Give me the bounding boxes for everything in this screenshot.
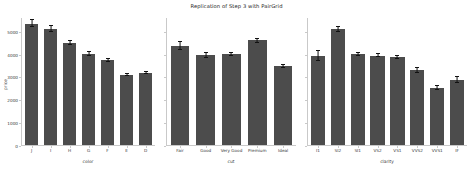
panel-cut: FairGoodVery GoodPremiumIdeal cut bbox=[166, 18, 296, 168]
error-bar-cap-top bbox=[87, 51, 91, 52]
x-tick-label: J bbox=[22, 146, 41, 154]
error-bar-cap-bottom bbox=[87, 55, 91, 56]
x-tick-label: E bbox=[117, 146, 136, 154]
error-bar-cap-bottom bbox=[281, 67, 285, 68]
x-tick-label: SI2 bbox=[328, 146, 348, 154]
bar-group-color bbox=[22, 18, 155, 145]
x-axis-label-clarity: clarity bbox=[307, 159, 467, 164]
bar-slot bbox=[193, 18, 219, 145]
bar-slot bbox=[328, 18, 348, 145]
panel-color: 010002000300040005000 price JIHGFED colo… bbox=[21, 18, 155, 168]
y-tick-mark bbox=[305, 32, 307, 33]
x-tick-mark bbox=[231, 146, 232, 148]
x-tick-mark bbox=[180, 146, 181, 148]
y-tick-mark bbox=[305, 55, 307, 56]
bar-slot bbox=[41, 18, 60, 145]
y-tick-mark bbox=[164, 146, 166, 147]
bar bbox=[370, 56, 384, 146]
x-axis-ticks-cut: FairGoodVery GoodPremiumIdeal bbox=[167, 146, 296, 154]
y-tick-mark bbox=[19, 100, 21, 101]
error-bar-cap-top bbox=[30, 19, 34, 20]
bar-slot bbox=[368, 18, 388, 145]
x-axis-label-color: color bbox=[21, 159, 155, 164]
bar bbox=[44, 29, 58, 145]
y-tick-mark bbox=[164, 32, 166, 33]
x-tick-label: Ideal bbox=[270, 146, 296, 154]
bar-group-cut bbox=[167, 18, 296, 145]
error-bar-cap-top bbox=[204, 52, 208, 53]
error-bar-cap-bottom bbox=[178, 49, 182, 50]
y-tick-label: 0 bbox=[15, 144, 18, 149]
error-bar-cap-top bbox=[316, 50, 320, 51]
error-bar-cap-bottom bbox=[316, 60, 320, 61]
bar-slot bbox=[79, 18, 98, 145]
bar bbox=[450, 80, 464, 145]
x-tick-mark bbox=[318, 146, 319, 148]
x-axis-ticks-color: JIHGFED bbox=[22, 146, 155, 154]
x-tick-label: G bbox=[79, 146, 98, 154]
x-tick-label: VS2 bbox=[368, 146, 388, 154]
bar-group-clarity bbox=[308, 18, 467, 145]
error-bar-cap-top bbox=[229, 52, 233, 53]
x-axis-ticks-clarity: I1SI2SI1VS2VS1VVS2VVS1IF bbox=[308, 146, 467, 154]
bar bbox=[248, 40, 267, 145]
x-tick-mark bbox=[146, 146, 147, 148]
error-bar-cap-top bbox=[178, 41, 182, 42]
error-bar-cap-top bbox=[395, 55, 399, 56]
bar bbox=[82, 54, 96, 145]
x-tick-mark bbox=[378, 146, 379, 148]
bar bbox=[430, 88, 444, 146]
error-bar-cap-bottom bbox=[455, 82, 459, 83]
x-tick-mark bbox=[257, 146, 258, 148]
bar bbox=[390, 57, 404, 145]
bar bbox=[25, 24, 39, 146]
error-bar-cap-bottom bbox=[255, 42, 259, 43]
x-tick-mark bbox=[89, 146, 90, 148]
panel-clarity: I1SI2SI1VS2VS1VVS2VVS1IF clarity bbox=[307, 18, 467, 168]
bar-slot bbox=[447, 18, 467, 145]
bar bbox=[63, 43, 77, 146]
bar-slot bbox=[407, 18, 427, 145]
y-tick-mark bbox=[19, 123, 21, 124]
x-tick-label: H bbox=[60, 146, 79, 154]
error-bar-cap-bottom bbox=[144, 73, 148, 74]
error-bar-cap-top bbox=[281, 64, 285, 65]
x-tick-label: Good bbox=[193, 146, 219, 154]
bar-slot bbox=[427, 18, 447, 145]
y-tick-mark bbox=[305, 77, 307, 78]
error-bar-cap-bottom bbox=[356, 55, 360, 56]
x-tick-mark bbox=[206, 146, 207, 148]
y-tick-label: 2000 bbox=[7, 98, 18, 103]
y-tick-mark bbox=[305, 146, 307, 147]
x-tick-label: Fair bbox=[167, 146, 193, 154]
x-tick-mark bbox=[457, 146, 458, 148]
error-bar-cap-top bbox=[125, 73, 129, 74]
y-tick-mark bbox=[305, 123, 307, 124]
error-bar-cap-bottom bbox=[229, 55, 233, 56]
x-axis-label-cut: cut bbox=[166, 159, 296, 164]
error-bar-cap-bottom bbox=[49, 31, 53, 32]
chart-title: Replication of Step 3 with PairGrid bbox=[0, 3, 473, 9]
bar-slot bbox=[270, 18, 296, 145]
y-tick-mark bbox=[164, 100, 166, 101]
bar-slot bbox=[22, 18, 41, 145]
y-tick-mark bbox=[19, 77, 21, 78]
error-bar-cap-top bbox=[255, 38, 259, 39]
y-axis-label: price bbox=[3, 79, 8, 90]
bar-slot bbox=[219, 18, 245, 145]
bar-slot bbox=[244, 18, 270, 145]
bar-slot bbox=[348, 18, 368, 145]
x-tick-mark bbox=[358, 146, 359, 148]
x-tick-mark bbox=[127, 146, 128, 148]
x-tick-mark bbox=[108, 146, 109, 148]
x-tick-mark bbox=[70, 146, 71, 148]
y-tick-label: 5000 bbox=[7, 29, 18, 34]
y-tick-mark bbox=[19, 55, 21, 56]
error-bar-cap-top bbox=[106, 58, 110, 59]
bar bbox=[410, 70, 424, 145]
error-bar-cap-bottom bbox=[435, 89, 439, 90]
x-tick-mark bbox=[32, 146, 33, 148]
x-tick-mark bbox=[437, 146, 438, 148]
bar bbox=[274, 66, 293, 145]
x-tick-mark bbox=[417, 146, 418, 148]
